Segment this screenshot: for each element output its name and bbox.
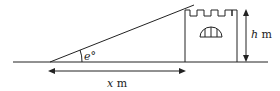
h-arrow-top-head bbox=[243, 9, 249, 16]
angle-of-elevation-diagram: e° x m h m bbox=[0, 0, 280, 91]
x-unit: m bbox=[117, 77, 127, 90]
x-distance-label: x m bbox=[107, 77, 127, 90]
angle-arc bbox=[80, 50, 82, 62]
line-of-sight bbox=[50, 5, 194, 62]
h-variable: h bbox=[251, 28, 258, 41]
tower-window bbox=[200, 27, 222, 37]
h-height-label: h m bbox=[251, 28, 272, 41]
diagram-figure bbox=[0, 0, 280, 91]
h-unit: m bbox=[262, 28, 272, 41]
angle-label: e° bbox=[84, 50, 96, 63]
x-variable: x bbox=[107, 77, 113, 90]
x-arrow-right-head bbox=[179, 68, 186, 74]
h-arrow-bottom-head bbox=[243, 55, 249, 62]
x-arrow-left-head bbox=[48, 68, 55, 74]
